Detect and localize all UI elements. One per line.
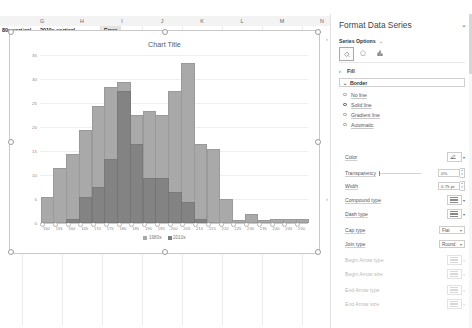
pane-header: Format Data Series ⌄ <box>339 20 467 30</box>
histogram-bar[interactable] <box>79 197 93 223</box>
column-header-J[interactable]: J <box>142 16 183 26</box>
field-dash-type[interactable]: Dash type▾ <box>345 210 465 220</box>
column-header-L[interactable]: L <box>222 16 263 26</box>
chart-legend[interactable]: 1980s2010s <box>10 235 319 240</box>
radio-automatic[interactable]: Automatic <box>351 122 374 128</box>
pane-subtitle-label: Series Options <box>339 38 376 44</box>
histogram-bar[interactable] <box>194 144 208 223</box>
field-label: End Arrow type <box>345 287 380 293</box>
column-header-I[interactable]: I <box>102 16 143 26</box>
spinner[interactable]: ▲▼ <box>460 181 465 191</box>
histogram-bar[interactable] <box>207 149 221 223</box>
histogram-bar[interactable] <box>92 187 106 223</box>
plot-area[interactable]: 05101520253035 <box>40 55 308 223</box>
x-axis-tick-label: 245 <box>285 226 292 231</box>
field-control[interactable]: ▾ <box>447 196 466 204</box>
legend-item[interactable]: 1980s <box>143 235 161 240</box>
column-header-H[interactable]: H <box>62 16 103 26</box>
histogram-bar[interactable] <box>66 219 80 223</box>
radio-gradient-line[interactable]: Gradient line <box>351 112 380 118</box>
paint-bucket-icon[interactable] <box>339 47 354 61</box>
transparency-value[interactable]: 0% <box>438 169 460 177</box>
histogram-bar[interactable] <box>194 219 208 223</box>
bar-chart-icon[interactable] <box>373 47 386 59</box>
chart-resize-handle[interactable] <box>315 29 321 35</box>
field-transparency[interactable]: Transparency0%▲▼ <box>345 169 465 179</box>
section-fill[interactable]: ›Fill <box>339 67 472 75</box>
icon-button[interactable] <box>447 195 462 205</box>
histogram-bar[interactable] <box>270 219 284 223</box>
chevron-down-icon[interactable]: ▾ <box>460 227 462 235</box>
combo-join-type[interactable]: Round▾ <box>439 240 465 248</box>
radio-no-line[interactable]: No line <box>351 92 367 98</box>
column-header-G[interactable]: G <box>22 16 63 26</box>
chart-resize-handle[interactable] <box>315 249 321 255</box>
field-control[interactable]: 0.75 pt▲▼ <box>438 182 465 190</box>
pane-subtitle[interactable]: Series Options ⌄ <box>339 38 383 44</box>
chart-resize-handle[interactable] <box>8 139 14 145</box>
chevron-down-icon-color[interactable]: ▾ <box>463 155 465 160</box>
histogram-bar[interactable] <box>104 159 118 223</box>
histogram-bar[interactable] <box>117 91 131 223</box>
icon-button[interactable] <box>447 209 462 219</box>
histogram-bar[interactable] <box>181 63 195 223</box>
chevron-down-icon-subtitle[interactable]: ⌄ <box>379 38 383 44</box>
histogram-bar[interactable] <box>66 154 80 223</box>
histogram-bar[interactable] <box>219 199 233 223</box>
histogram-bar[interactable] <box>232 220 246 223</box>
chart-title[interactable]: Chart Title <box>10 40 319 49</box>
chevron-down-icon[interactable]: ▾ <box>463 212 465 217</box>
radio-solid-line[interactable]: Solid line <box>351 102 372 108</box>
chart-resize-handle[interactable] <box>162 29 168 35</box>
spinner[interactable]: ▲▼ <box>460 168 465 178</box>
chevron-down-icon[interactable]: ▾ <box>463 198 465 203</box>
field-control[interactable]: 0%▲▼ <box>438 169 465 177</box>
slider-knob[interactable] <box>379 171 380 176</box>
histogram-bar[interactable] <box>53 168 67 223</box>
field-compound-type[interactable]: Compound type▾ <box>345 196 465 206</box>
chart-resize-handle[interactable] <box>315 139 321 145</box>
excel-window: GHIJKLMN 80s-vertical2010s-verticalError… <box>0 0 472 328</box>
column-header-M[interactable]: M <box>262 16 303 26</box>
field-width[interactable]: Width0.75 pt▲▼ <box>345 182 465 192</box>
chart-resize-handle[interactable] <box>162 249 168 255</box>
field-label: Begin Arrow type <box>345 257 384 263</box>
field-label: Color <box>345 154 357 160</box>
field-control[interactable]: Round▾ <box>439 240 465 248</box>
chart-resize-handle[interactable] <box>8 249 14 255</box>
chart-object[interactable]: Chart Title 05101520253035 1501551601651… <box>9 30 320 254</box>
field-control[interactable]: ▾ <box>447 210 466 218</box>
histogram-bar[interactable] <box>258 220 272 223</box>
pane-tab-icons[interactable] <box>339 47 459 60</box>
field-label: Begin Arrow size <box>345 271 383 277</box>
histogram-bar[interactable] <box>181 202 195 223</box>
chevron-down-icon[interactable]: ⌄ <box>461 21 467 29</box>
field-control[interactable]: ▾ <box>447 153 466 161</box>
chevron-down-icon[interactable]: ▾ <box>460 241 462 249</box>
histogram-bar[interactable] <box>245 214 259 223</box>
column-header-K[interactable]: K <box>182 16 223 26</box>
legend-item[interactable]: 2010s <box>168 235 186 240</box>
field-cap-type[interactable]: Cap typeFlat▾ <box>345 226 465 236</box>
histogram-bar[interactable] <box>130 144 144 223</box>
histogram-bar[interactable] <box>143 178 157 223</box>
field-color[interactable]: Color▾ <box>345 153 465 163</box>
chart-resize-handle[interactable] <box>8 29 14 35</box>
combo-cap-type[interactable]: Flat▾ <box>439 226 465 234</box>
field-control: ▾ <box>447 256 466 264</box>
histogram-bar[interactable] <box>155 178 169 223</box>
pentagon-effects-icon[interactable] <box>356 47 369 59</box>
transparency-slider[interactable] <box>379 173 421 174</box>
histogram-bar[interactable] <box>283 219 297 223</box>
color-picker-button[interactable] <box>447 152 462 162</box>
pane-divider <box>339 62 465 63</box>
histogram-bar[interactable] <box>41 197 55 223</box>
histogram-bars[interactable] <box>40 55 308 223</box>
field-join-type[interactable]: Join typeRound▾ <box>345 240 465 250</box>
field-control[interactable]: Flat▾ <box>439 226 465 234</box>
section-border[interactable]: ⌄Border <box>339 78 465 87</box>
width-value[interactable]: 0.75 pt <box>438 182 460 190</box>
histogram-bar[interactable] <box>296 219 310 223</box>
field-control: ▾ <box>447 300 466 308</box>
histogram-bar[interactable] <box>168 192 182 223</box>
